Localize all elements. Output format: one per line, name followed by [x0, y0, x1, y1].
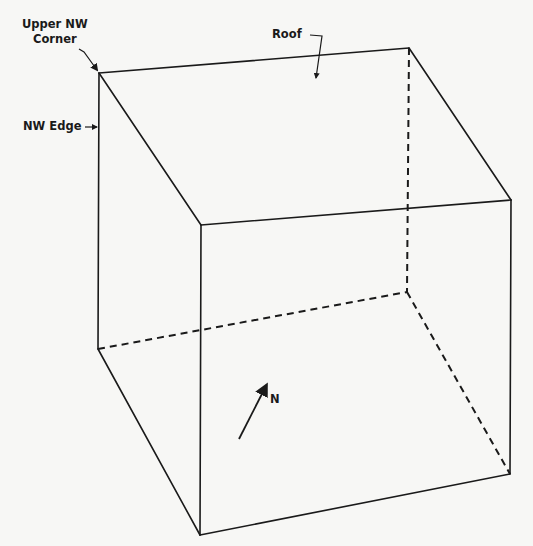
upper-nw-corner-leader-arrow: [79, 49, 97, 70]
diagram-canvas: Upper NW Corner NW Edge Roof N: [0, 0, 533, 546]
hidden-bottom-back-edge: [98, 292, 407, 349]
hidden-vertical-edge: [407, 48, 409, 292]
hidden-bottom-east-edge: [407, 292, 510, 474]
upper-nw-corner-label-line1: Upper NW: [22, 17, 88, 32]
north-arrow-icon: [239, 386, 266, 439]
upper-nw-corner-label-line2: Corner: [22, 32, 88, 47]
box-diagram: [0, 0, 533, 546]
nw-edge-label: NW Edge: [23, 119, 81, 134]
solid-edges: [98, 48, 511, 535]
roof-label: Roof: [272, 27, 302, 42]
front-right-edge: [510, 200, 511, 474]
nw-edge: [98, 73, 99, 349]
north-label: N: [270, 392, 280, 407]
bottom-front-edge: [200, 474, 510, 535]
roof-ne-edge: [409, 48, 511, 200]
upper-nw-corner-label: Upper NW Corner: [22, 17, 88, 47]
front-left-edge: [200, 225, 201, 535]
roof-sw-edge: [99, 73, 201, 225]
leader-lines: [79, 35, 322, 127]
bottom-west-edge: [98, 349, 200, 535]
roof-front-edge: [201, 200, 511, 225]
roof-back-edge: [99, 48, 409, 73]
hidden-edges: [98, 48, 510, 474]
